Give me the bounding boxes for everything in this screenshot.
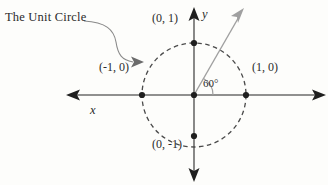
point-origin [191, 92, 197, 98]
figure-title: The Unit Circle [5, 11, 86, 24]
point-left [139, 92, 145, 98]
angle-label: 60° [203, 78, 218, 89]
x-axis-label: x [90, 104, 96, 117]
unit-circle-figure [0, 0, 328, 185]
y-axis-label: y [202, 8, 208, 21]
point-right [243, 92, 249, 98]
point-top [191, 40, 197, 46]
point-label-right: (1, 0) [252, 61, 278, 73]
point-label-bottom: (0, -1) [152, 138, 182, 150]
point-label-left: (-1, 0) [99, 61, 129, 73]
point-bottom [191, 133, 197, 139]
point-label-top: (0, 1) [152, 12, 178, 24]
title-leader-line [84, 21, 133, 62]
